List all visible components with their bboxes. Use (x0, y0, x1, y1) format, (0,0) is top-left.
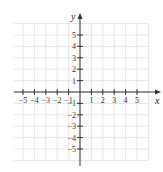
y-axis-label: y (70, 11, 76, 22)
y-tick-label: −4 (67, 134, 76, 143)
y-tick-label: 5 (72, 31, 76, 40)
y-tick-label: 1 (72, 77, 76, 86)
x-tick-label: −2 (53, 96, 62, 105)
y-tick-label: −3 (67, 122, 76, 131)
x-tick-label: −3 (42, 96, 51, 105)
y-tick-label: −2 (67, 111, 76, 120)
y-tick-label: −5 (67, 145, 76, 154)
x-axis-label: x (154, 95, 160, 106)
x-tick-label: 5 (135, 96, 139, 105)
y-tick-label: −1 (67, 99, 76, 108)
x-tick-label: −5 (19, 96, 28, 105)
x-tick-label: 1 (89, 96, 93, 105)
y-tick-label: 3 (72, 54, 76, 63)
x-tick-label: 2 (101, 96, 105, 105)
x-tick-label: −4 (30, 96, 39, 105)
x-tick-label: 4 (124, 96, 128, 105)
background (0, 0, 163, 172)
coordinate-plane: −5−4−3−2−112345 54321−1−2−3−4−5 x y (0, 0, 163, 172)
y-tick-label: 2 (72, 65, 76, 74)
x-tick-label: 3 (112, 96, 116, 105)
y-tick-label: 4 (72, 42, 76, 51)
